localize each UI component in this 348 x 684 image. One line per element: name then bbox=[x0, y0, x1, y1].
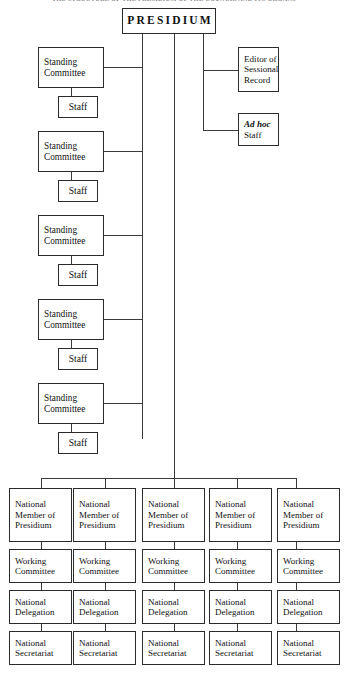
connector-member-3-to-working-3 bbox=[174, 542, 175, 549]
member-label-line3: Presidium bbox=[215, 520, 271, 530]
staff-box-5: Staff bbox=[58, 432, 98, 454]
connector-committee-4-to-spine bbox=[104, 319, 143, 320]
editor-label-line1: Editor of bbox=[244, 54, 278, 65]
national-member-box-2: National Member of Presidium bbox=[73, 488, 136, 542]
standing-committee-label-line2: Committee bbox=[44, 68, 103, 79]
secretariat-label-line1: National bbox=[79, 638, 135, 648]
standing-committee-box-5: Standing Committee bbox=[38, 383, 104, 424]
working-label-line1: Working bbox=[215, 556, 271, 566]
standing-committee-label-line2: Committee bbox=[44, 320, 103, 331]
bus-riser-col-3 bbox=[174, 478, 175, 488]
national-secretariat-box-5: National Secretariat bbox=[277, 631, 340, 665]
member-label-line2: Member of bbox=[283, 510, 339, 520]
national-member-box-5: National Member of Presidium bbox=[277, 488, 340, 542]
working-label-line1: Working bbox=[283, 556, 339, 566]
staff-label: Staff bbox=[69, 437, 87, 448]
member-label-line2: Member of bbox=[15, 510, 71, 520]
connector-committee-1-to-spine bbox=[104, 67, 143, 68]
working-committee-box-4: Working Committee bbox=[209, 549, 272, 583]
member-label-line3: Presidium bbox=[15, 520, 71, 530]
working-label-line2: Committee bbox=[215, 566, 271, 576]
delegation-label-line2: Delegation bbox=[148, 607, 204, 617]
staff-label: Staff bbox=[69, 185, 87, 196]
secretariat-label-line2: Secretariat bbox=[215, 648, 271, 658]
secretariat-label-line1: National bbox=[15, 638, 71, 648]
presidium-box: PRESIDIUM bbox=[122, 8, 216, 34]
delegation-label-line1: National bbox=[215, 597, 271, 607]
editor-label-line3: Record bbox=[244, 75, 278, 86]
standing-committee-box-3: Standing Committee bbox=[38, 215, 104, 256]
national-member-box-3: National Member of Presidium bbox=[142, 488, 205, 542]
secretariat-label-line2: Secretariat bbox=[148, 648, 204, 658]
member-label-line2: Member of bbox=[79, 510, 135, 520]
delegation-label-line2: Delegation bbox=[215, 607, 271, 617]
member-label-line2: Member of bbox=[148, 510, 204, 520]
left-spine-line bbox=[142, 34, 143, 439]
national-secretariat-box-4: National Secretariat bbox=[209, 631, 272, 665]
delegation-label-line1: National bbox=[15, 597, 71, 607]
working-committee-box-5: Working Committee bbox=[277, 549, 340, 583]
connector-delegation-4-to-secretariat-4 bbox=[237, 624, 238, 631]
page-heading: THE STRUCTURE OF THE PRESIDIUM OF THE CO… bbox=[0, 0, 348, 2]
connector-working-3-to-delegation-3 bbox=[174, 583, 175, 590]
staff-label: Staff bbox=[69, 269, 87, 280]
member-label-line1: National bbox=[15, 499, 71, 509]
standing-committee-box-2: Standing Committee bbox=[38, 131, 104, 172]
secretariat-label-line2: Secretariat bbox=[15, 648, 71, 658]
connector-delegation-5-to-secretariat-5 bbox=[296, 624, 297, 631]
staff-box-2: Staff bbox=[58, 180, 98, 202]
staff-box-1: Staff bbox=[58, 96, 98, 118]
national-secretariat-box-3: National Secretariat bbox=[142, 631, 205, 665]
connector-spine-to-ad-hoc-staff bbox=[203, 130, 239, 131]
connector-committee-3-to-spine bbox=[104, 235, 143, 236]
delegation-label-line2: Delegation bbox=[15, 607, 71, 617]
connector-working-2-to-delegation-2 bbox=[105, 583, 106, 590]
secretariat-label-line2: Secretariat bbox=[283, 648, 339, 658]
bus-riser-col-5 bbox=[296, 478, 297, 488]
right-spine-line bbox=[203, 34, 204, 130]
connector-delegation-1-to-secretariat-1 bbox=[41, 624, 42, 631]
editor-label-line2: Sessional bbox=[244, 64, 278, 75]
member-label-line2: Member of bbox=[215, 510, 271, 520]
member-label-line1: National bbox=[148, 499, 204, 509]
standing-committee-label-line1: Standing bbox=[44, 393, 103, 404]
delegation-label-line2: Delegation bbox=[283, 607, 339, 617]
bottom-distribution-bus bbox=[41, 478, 297, 479]
connector-working-5-to-delegation-5 bbox=[296, 583, 297, 590]
secretariat-label-line2: Secretariat bbox=[79, 648, 135, 658]
member-label-line1: National bbox=[215, 499, 271, 509]
secretariat-label-line1: National bbox=[215, 638, 271, 648]
secretariat-label-line1: National bbox=[148, 638, 204, 648]
member-label-line1: National bbox=[79, 499, 135, 509]
standing-committee-label-line1: Standing bbox=[44, 57, 103, 68]
ad-hoc-staff-box: Ad hoc Staff bbox=[238, 113, 279, 146]
standing-committee-label-line1: Standing bbox=[44, 141, 103, 152]
member-label-line3: Presidium bbox=[79, 520, 135, 530]
working-label-line2: Committee bbox=[283, 566, 339, 576]
national-secretariat-box-1: National Secretariat bbox=[9, 631, 72, 665]
connector-committee-2-to-spine bbox=[104, 151, 143, 152]
presidium-label: PRESIDIUM bbox=[125, 14, 213, 27]
national-delegation-box-3: National Delegation bbox=[142, 590, 205, 624]
connector-spine-to-editor bbox=[203, 70, 239, 71]
standing-committee-label-line2: Committee bbox=[44, 236, 103, 247]
delegation-label-line1: National bbox=[283, 597, 339, 607]
staff-box-4: Staff bbox=[58, 348, 98, 370]
national-delegation-box-2: National Delegation bbox=[73, 590, 136, 624]
member-label-line3: Presidium bbox=[148, 520, 204, 530]
org-chart-canvas: THE STRUCTURE OF THE PRESIDIUM OF THE CO… bbox=[0, 0, 348, 684]
standing-committee-label-line2: Committee bbox=[44, 404, 103, 415]
connector-member-5-to-working-5 bbox=[296, 542, 297, 549]
connector-member-2-to-working-2 bbox=[105, 542, 106, 549]
staff-label: Staff bbox=[69, 353, 87, 364]
working-committee-box-3: Working Committee bbox=[142, 549, 205, 583]
connector-member-1-to-working-1 bbox=[41, 542, 42, 549]
bus-riser-col-1 bbox=[41, 478, 42, 488]
ad-hoc-label-line1: Ad hoc bbox=[244, 119, 278, 130]
delegation-label-line1: National bbox=[148, 597, 204, 607]
secretariat-label-line1: National bbox=[283, 638, 339, 648]
national-delegation-box-4: National Delegation bbox=[209, 590, 272, 624]
working-label-line2: Committee bbox=[15, 566, 71, 576]
working-committee-box-2: Working Committee bbox=[73, 549, 136, 583]
working-label-line1: Working bbox=[148, 556, 204, 566]
